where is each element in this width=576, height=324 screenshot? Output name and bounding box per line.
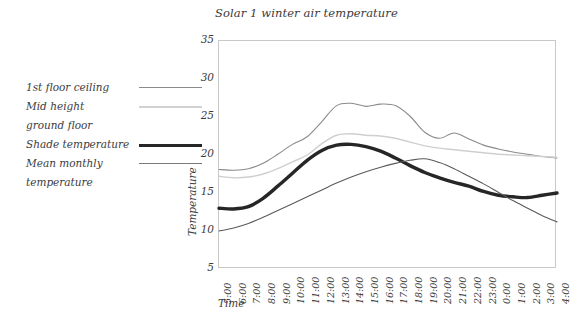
x-tick-label: 1:00 (516, 283, 527, 304)
x-tick-label: 17:00 (398, 277, 409, 304)
x-tick-label: 7:00 (251, 283, 262, 304)
chart-legend: 1st floor ceilingMid heightground floorS… (26, 80, 206, 194)
x-tick-label: 3:00 (545, 283, 556, 304)
series-svg (219, 41, 557, 269)
legend-label: Mean monthly (26, 156, 103, 171)
legend-item-1: ground floor (26, 118, 206, 137)
x-tick-label: 21:00 (457, 277, 468, 304)
x-tick-label: 8:00 (266, 283, 277, 304)
x-tick-label: 2:00 (531, 283, 542, 304)
legend-item-2: Shade temperature (26, 137, 206, 156)
legend-label: ground floor (26, 118, 92, 133)
x-tick-label: 12:00 (325, 277, 336, 304)
chart-root: Solar 1 winter air temperature 1st floor… (0, 0, 576, 324)
series-line-2 (219, 144, 557, 209)
y-axis-label: Temperature (186, 116, 198, 236)
x-tick-label: 15:00 (369, 277, 380, 304)
x-tick-label: 11:00 (310, 277, 321, 304)
x-tick-label: 19:00 (428, 277, 439, 304)
x-tick-label: 20:00 (442, 277, 453, 304)
legend-label: temperature (26, 175, 93, 190)
x-tick-label: 10:00 (295, 277, 306, 304)
x-tick-label: 13:00 (340, 277, 351, 304)
x-tick-label: 4:00 (560, 283, 571, 304)
chart-title: Solar 1 winter air temperature (215, 6, 398, 20)
x-tick-label: 16:00 (384, 277, 395, 304)
x-axis-ticks: 5:006:007:008:009:0010:0011:0012:0013:00… (218, 270, 556, 320)
x-tick-label: 9:00 (281, 283, 292, 304)
legend-item-1: Mid height (26, 99, 206, 118)
y-axis-label-wrap: Temperature (196, 40, 216, 268)
legend-item-3: Mean monthly (26, 156, 206, 175)
legend-label: Mid height (26, 99, 84, 114)
x-tick-label: 18:00 (413, 277, 424, 304)
x-tick-label: 14:00 (354, 277, 365, 304)
x-tick-label: 22:00 (472, 277, 483, 304)
legend-label: 1st floor ceiling (26, 80, 109, 95)
x-tick-label: 23:00 (487, 277, 498, 304)
x-tick-label: 0:00 (501, 283, 512, 304)
legend-item-3: temperature (26, 175, 206, 194)
plot-area (218, 40, 556, 268)
legend-item-0: 1st floor ceiling (26, 80, 206, 99)
x-axis-label: Time (218, 297, 245, 309)
legend-label: Shade temperature (26, 137, 129, 152)
